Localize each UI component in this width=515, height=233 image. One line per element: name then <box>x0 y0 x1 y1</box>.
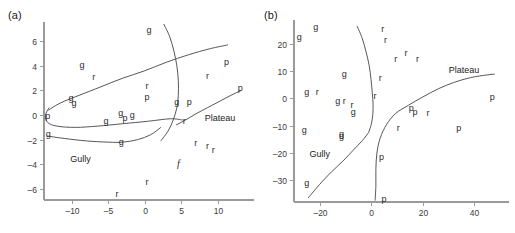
x-tick-label: 20 <box>419 209 428 218</box>
data-point-marker: g <box>302 125 307 134</box>
data-point-marker: g <box>335 97 340 106</box>
data-point-marker: g <box>339 132 344 141</box>
data-point-marker: p <box>45 112 50 121</box>
data-point-marker: g <box>304 178 309 187</box>
data-point-marker: p <box>413 108 418 117</box>
y-tick-label: –4 <box>28 160 37 169</box>
data-point-marker: g <box>79 60 84 69</box>
region-annotation: Gully <box>309 150 330 159</box>
boundary-curve-plateau-boundary <box>375 74 495 201</box>
data-point-marker: p <box>224 58 229 67</box>
data-point-marker: p <box>144 92 149 101</box>
y-tick-label: 4 <box>32 62 37 71</box>
data-point-marker: r <box>379 73 382 82</box>
data-point-marker: p <box>123 113 128 122</box>
data-point-marker: r <box>394 54 397 63</box>
region-annotation: Gully <box>70 155 91 164</box>
data-point-marker: r <box>194 139 197 148</box>
y-tick-label: 20 <box>278 40 287 49</box>
data-point-marker: r <box>206 141 209 150</box>
x-tick-label: 0 <box>143 207 148 216</box>
data-point-marker: r <box>145 81 148 90</box>
data-point-marker: g <box>104 117 109 126</box>
data-point-marker: g <box>130 111 135 120</box>
data-point-marker: g <box>174 97 179 106</box>
x-tick-label: 5 <box>179 207 184 216</box>
data-point-marker: g <box>351 108 356 117</box>
data-point-marker: r <box>384 35 387 44</box>
figure-container: (a) –10–505106420–2–4–6ggprrrppgggppgpgg… <box>0 0 515 233</box>
data-point-marker: g <box>71 98 76 107</box>
data-point-marker: p <box>187 97 192 106</box>
data-point-marker: p <box>382 195 387 204</box>
data-point-marker: g <box>342 69 347 78</box>
x-tick-label: –10 <box>65 207 79 216</box>
x-tick-label: –5 <box>104 207 113 216</box>
y-tick-label: –2 <box>28 136 37 145</box>
data-point-marker: r <box>115 189 118 198</box>
data-point-marker: p <box>238 84 243 93</box>
boundary-curve-gully-boundary-lower <box>308 132 369 197</box>
y-tick-label: 6 <box>32 37 37 46</box>
data-point-marker: r <box>381 24 384 33</box>
y-tick-label: –30 <box>273 176 287 185</box>
data-point-marker: p <box>456 124 461 133</box>
data-point-marker: r <box>92 72 95 81</box>
data-point-marker: g <box>147 26 152 35</box>
panel-a: (a) –10–505106420–2–4–6ggprrrppgggppgpgg… <box>0 0 258 233</box>
data-point-marker: r <box>316 87 319 96</box>
region-annotation: Plateau <box>205 113 236 122</box>
data-point-marker: r <box>405 49 408 58</box>
data-point-marker: r <box>212 145 215 154</box>
x-tick-label: 40 <box>470 209 479 218</box>
data-point-marker: r <box>416 54 419 63</box>
data-point-marker: g <box>304 87 309 96</box>
data-point-marker: p <box>490 93 495 102</box>
data-point-marker: r <box>145 177 148 186</box>
x-tick-label: –20 <box>313 209 327 218</box>
data-point-marker: r <box>426 109 429 118</box>
data-point-marker: p <box>379 153 384 162</box>
data-point-marker: r <box>183 117 186 126</box>
region-annotation: Plateau <box>449 65 480 74</box>
panel-b: (b) –200204020100–10–20–30grgrrrrgrgrrpg… <box>258 0 515 233</box>
data-point-marker: g <box>119 138 124 147</box>
boundary-curve-gully-loop-upper <box>45 108 182 128</box>
data-point-marker: g <box>46 129 51 138</box>
y-tick-label: –20 <box>273 149 287 158</box>
x-tick-label: 10 <box>214 207 223 216</box>
data-point-marker: g <box>313 23 318 32</box>
data-point-marker: f <box>177 159 180 169</box>
data-point-marker: r <box>343 97 346 106</box>
y-tick-label: –10 <box>273 122 287 131</box>
y-tick-label: 0 <box>282 94 287 103</box>
boundary-curve-upper-gully-boundary <box>357 26 373 132</box>
data-point-marker: r <box>374 91 377 100</box>
y-tick-label: 2 <box>32 86 37 95</box>
y-tick-label: 0 <box>32 111 37 120</box>
boundary-curve-gully-loop-lower <box>47 127 161 142</box>
x-tick-label: 0 <box>369 209 374 218</box>
data-point-marker: r <box>397 124 400 133</box>
y-tick-label: –6 <box>28 185 37 194</box>
data-point-marker: g <box>297 33 302 42</box>
boundary-curve-ridge-crossing-curve <box>161 24 179 141</box>
data-point-marker: r <box>206 71 209 80</box>
y-tick-label: 10 <box>278 67 287 76</box>
